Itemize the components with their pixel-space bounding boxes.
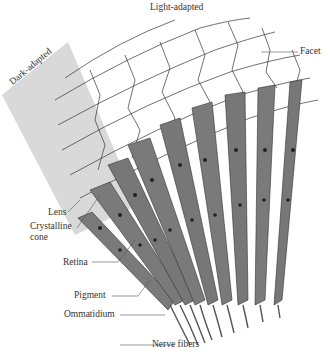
label-retina: Retina	[63, 258, 88, 268]
label-crystalline-cone-1: Crystalline	[30, 222, 72, 232]
label-pigment: Pigment	[74, 291, 106, 301]
label-light-adapted: Light-adapted	[150, 3, 203, 13]
label-facet: Facet	[300, 47, 321, 57]
label-crystalline-cone-2: cone	[30, 233, 48, 243]
label-ommatidium: Ommatidium	[64, 310, 115, 320]
compound-eye-diagram: Light-adapted Dark-adapted Facet Lens Cr…	[0, 0, 327, 351]
label-nerve-fibers: Nerve fibers	[152, 340, 199, 350]
ommatidium-8	[255, 85, 275, 305]
label-lens: Lens	[48, 208, 66, 218]
ommatidia	[78, 80, 302, 310]
ommatidium-9	[274, 80, 302, 305]
